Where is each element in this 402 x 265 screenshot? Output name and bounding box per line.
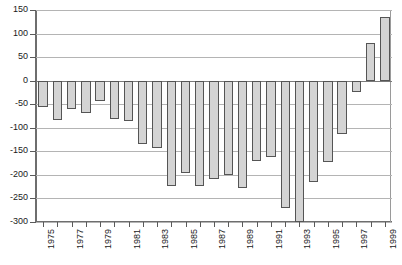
y-tick-mark [30, 104, 36, 105]
y-axis-label: -200 [0, 170, 28, 179]
y-tick-mark [30, 81, 36, 82]
x-tick-mark [299, 222, 300, 227]
y-axis-label: 100 [0, 29, 28, 38]
x-tick-mark [371, 222, 372, 227]
x-tick-mark [214, 222, 215, 227]
x-tick-mark [171, 222, 172, 227]
bar [209, 81, 218, 179]
x-tick-mark [114, 222, 115, 227]
bar [138, 81, 147, 145]
x-axis-label: 1991 [275, 229, 284, 249]
bar [124, 81, 133, 122]
x-tick-mark [200, 222, 201, 227]
gridline-neg250 [36, 198, 392, 199]
x-tick-mark [72, 222, 73, 227]
x-axis-label: 1995 [332, 229, 341, 249]
x-axis-label: 1985 [190, 229, 199, 249]
y-axis-label: -50 [0, 99, 28, 108]
gridline-100 [36, 34, 392, 35]
bar [266, 81, 275, 157]
bar [309, 81, 318, 182]
bar [167, 81, 176, 186]
bar [252, 81, 261, 161]
gridline-50 [36, 57, 392, 58]
bar [366, 43, 375, 81]
x-tick-mark [100, 222, 101, 227]
x-tick-mark [385, 222, 386, 227]
x-tick-mark [43, 222, 44, 227]
y-axis-label: -250 [0, 193, 28, 202]
gridline-150 [36, 10, 392, 11]
x-tick-mark [271, 222, 272, 227]
bar [380, 17, 389, 81]
x-axis-label: 1987 [218, 229, 227, 249]
bar [238, 81, 247, 188]
y-tick-mark [30, 222, 36, 223]
x-tick-mark [314, 222, 315, 227]
bar [352, 81, 361, 93]
y-axis-label: 0 [0, 76, 28, 85]
bar [81, 81, 90, 113]
x-tick-mark [129, 222, 130, 227]
x-tick-mark [356, 222, 357, 227]
y-tick-mark [30, 198, 36, 199]
x-tick-mark [143, 222, 144, 227]
x-axis-label: 1999 [389, 229, 398, 249]
bar [195, 81, 204, 186]
y-axis-label: -100 [0, 123, 28, 132]
x-axis-label: 1979 [104, 229, 113, 249]
x-tick-mark [242, 222, 243, 227]
bar [67, 81, 76, 109]
x-tick-mark [157, 222, 158, 227]
y-tick-mark [30, 175, 36, 176]
x-axis-label: 1975 [47, 229, 56, 249]
bar [323, 81, 332, 162]
y-tick-mark [30, 151, 36, 152]
x-tick-mark [285, 222, 286, 227]
y-axis-label: 50 [0, 52, 28, 61]
bar [337, 81, 346, 134]
bar [38, 81, 47, 107]
x-tick-mark [328, 222, 329, 227]
x-axis-label: 1977 [76, 229, 85, 249]
bar [152, 81, 161, 148]
y-axis-label: -300 [0, 217, 28, 226]
x-tick-mark [228, 222, 229, 227]
y-tick-mark [30, 57, 36, 58]
y-tick-mark [30, 10, 36, 11]
y-axis-label: 150 [0, 5, 28, 14]
bar-chart: 150100500-50-100-150-200-250-300 1975197… [0, 0, 402, 265]
bar [110, 81, 119, 120]
x-axis-label: 1981 [133, 229, 142, 249]
y-axis-label: -150 [0, 146, 28, 155]
x-tick-mark [86, 222, 87, 227]
bar [295, 81, 304, 222]
bar [53, 81, 62, 121]
x-axis-label: 1997 [360, 229, 369, 249]
y-tick-mark [30, 128, 36, 129]
x-axis-label: 1993 [303, 229, 312, 249]
x-axis-label: 1989 [246, 229, 255, 249]
x-tick-mark [186, 222, 187, 227]
x-tick-mark [342, 222, 343, 227]
bar [95, 81, 104, 102]
x-axis-label: 1983 [161, 229, 170, 249]
x-tick-mark [57, 222, 58, 227]
bar [224, 81, 233, 176]
bar [281, 81, 290, 208]
bar [181, 81, 190, 174]
y-tick-mark [30, 34, 36, 35]
x-tick-mark [257, 222, 258, 227]
